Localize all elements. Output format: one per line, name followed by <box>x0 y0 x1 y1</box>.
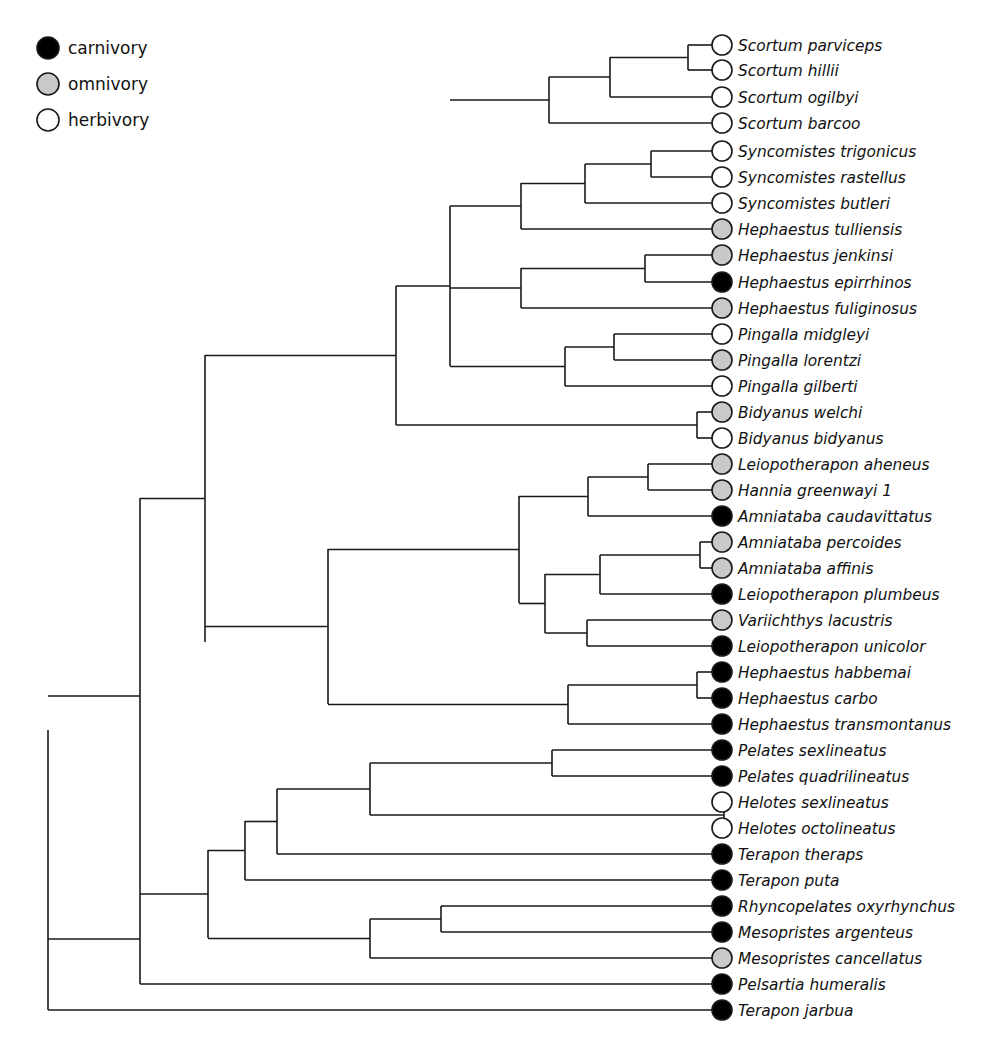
taxon-label: Rhyncopelates oxyrhynchus <box>738 898 955 916</box>
taxon-label: Bidyanus welchi <box>738 404 863 422</box>
taxon-label: Hephaestus transmontanus <box>738 716 951 734</box>
taxon-label: Amniataba percoides <box>737 534 902 552</box>
taxon-label: Amniataba affinis <box>737 560 873 578</box>
clade-mesopristes-clade <box>208 919 370 958</box>
tip-state-circle-carnivory <box>712 714 732 734</box>
taxon-label: Pelates sexlineatus <box>738 742 886 760</box>
taxon-label: Terapon jarbua <box>738 1002 854 1020</box>
legend-label: carnivory <box>68 38 147 58</box>
tip-state-circle-carnivory <box>712 272 732 292</box>
taxon-label: Scortum parviceps <box>738 37 882 55</box>
legend-item-herbivory: herbivory <box>37 109 149 131</box>
legend-circle-omnivory <box>37 73 59 95</box>
legend-label: omnivory <box>68 74 148 94</box>
clade-caudavittatus-clade <box>519 477 588 516</box>
clade-amniataba-pair <box>600 542 700 568</box>
tip-state-circle-omnivory <box>712 298 732 318</box>
tip-state-circle-herbivory <box>712 324 732 344</box>
tip-bidyanus-bidyanus: Bidyanus bidyanus <box>697 428 883 448</box>
taxon-label: Pingalla lorentzi <box>738 352 862 370</box>
tip-state-circle-carnivory <box>712 896 732 916</box>
taxon-label: Mesopristes cancellatus <box>738 950 922 968</box>
taxon-label: Syncomistes butleri <box>738 195 891 213</box>
tip-state-circle-omnivory <box>712 245 732 265</box>
clade-plumbeus-clade <box>545 555 600 594</box>
tip-state-circle-omnivory <box>712 480 732 500</box>
tip-amniataba-percoides: Amniataba percoides <box>700 532 902 552</box>
taxon-label: Pelsartia humeralis <box>738 976 886 994</box>
legend-label: herbivory <box>68 110 149 130</box>
taxon-label: Syncomistes trigonicus <box>738 143 916 161</box>
taxon-label: Pingalla gilberti <box>738 378 858 396</box>
tip-state-circle-herbivory <box>712 167 732 187</box>
tip-state-circle-herbivory <box>712 35 732 55</box>
clade-hephaestus-jenk-epirr <box>521 255 645 282</box>
taxon-label: Hannia greenwayi 1 <box>738 482 892 500</box>
taxon-label: Helotes octolineatus <box>738 820 896 838</box>
clade-plumbeus-unicolor-clade <box>519 574 545 633</box>
taxon-label: Terapon puta <box>738 872 840 890</box>
tip-state-circle-herbivory <box>712 60 732 80</box>
tip-syncomistes-rastellus: Syncomistes rastellus <box>651 167 906 187</box>
tip-mesopristes-argenteus: Mesopristes argenteus <box>441 922 913 942</box>
tip-state-circle-herbivory <box>712 792 732 812</box>
tip-amniataba-caudavittatus: Amniataba caudavittatus <box>588 506 932 526</box>
tip-leiopotherapon-unicolor: Leiopotherapon unicolor <box>587 636 927 656</box>
tip-state-circle-omnivory <box>712 948 732 968</box>
tip-pelates-sexlineatus: Pelates sexlineatus <box>552 740 886 760</box>
clade-helotes-pair <box>370 802 724 828</box>
tip-pingalla-midgleyi: Pingalla midgleyi <box>614 324 870 344</box>
taxon-label: Leiopotherapon aheneus <box>738 456 929 474</box>
taxon-label: Terapon theraps <box>738 846 863 864</box>
tip-state-circle-herbivory <box>712 87 732 107</box>
tip-state-circle-carnivory <box>712 662 732 682</box>
tip-hephaestus-habbemai: Hephaestus habbemai <box>697 662 912 682</box>
taxon-label: Bidyanus bidyanus <box>738 430 883 448</box>
tip-state-circle-omnivory <box>712 454 732 474</box>
tip-state-circle-omnivory <box>712 402 732 422</box>
tip-state-circle-omnivory <box>712 532 732 552</box>
branch-layer <box>48 45 724 1010</box>
tip-scortum-hillii: Scortum hillii <box>688 60 840 80</box>
taxon-label: Amniataba caudavittatus <box>737 508 932 526</box>
taxon-label: Helotes sexlineatus <box>738 794 889 812</box>
tip-scortum-parviceps: Scortum parviceps <box>688 35 882 55</box>
clade-habbemai-carbo <box>568 672 697 698</box>
tip-terapon-puta: Terapon puta <box>245 870 840 890</box>
tip-helotes-octolineatus: Helotes octolineatus <box>712 818 896 838</box>
taxon-label: Leiopotherapon plumbeus <box>738 586 940 604</box>
taxon-label: Scortum hillii <box>738 62 840 80</box>
clade-lower-clade <box>140 850 208 938</box>
tip-state-circle-carnivory <box>712 1000 732 1020</box>
taxon-label: Hephaestus habbemai <box>738 664 912 682</box>
tip-hephaestus-transmontanus: Hephaestus transmontanus <box>568 714 951 734</box>
taxon-label: Hephaestus jenkinsi <box>738 247 894 265</box>
clade-hephaestus-fulig-clade <box>450 268 521 308</box>
taxon-label: Pelates quadrilineatus <box>738 768 909 786</box>
taxon-label: Pingalla midgleyi <box>738 326 870 344</box>
tip-state-circle-carnivory <box>712 636 732 656</box>
clade-rhyncopelates-mesopristes <box>370 906 441 932</box>
tip-state-circle-herbivory <box>712 376 732 396</box>
clade-pelates-helotes-clade <box>277 763 370 815</box>
phylogenetic-tree: Scortum parvicepsScortum hilliiScortum o… <box>0 0 990 1045</box>
tip-pelsartia-humeralis: Pelsartia humeralis <box>140 974 886 994</box>
figure-canvas: Scortum parvicepsScortum hilliiScortum o… <box>0 0 990 1045</box>
taxon-label: Hephaestus fuliginosus <box>738 300 917 318</box>
clade-middle-major-clade <box>205 549 328 704</box>
tip-state-circle-carnivory <box>712 870 732 890</box>
tip-bidyanus-welchi: Bidyanus welchi <box>697 402 863 422</box>
tip-state-circle-herbivory <box>712 193 732 213</box>
tip-pingalla-lorentzi: Pingalla lorentzi <box>614 350 862 370</box>
tip-variichthys-lacustris: Variichthys lacustris <box>587 610 892 630</box>
clade-scortum-parviceps-hillii <box>610 45 688 70</box>
tip-hephaestus-jenkinsi: Hephaestus jenkinsi <box>645 245 894 265</box>
tip-state-circle-herbivory <box>712 113 732 133</box>
clade-pingalla-midg-lor <box>565 334 614 360</box>
taxon-label: Leiopotherapon unicolor <box>738 638 927 656</box>
clade-syncomistes-clade <box>521 164 585 203</box>
tip-state-circle-carnivory <box>712 922 732 942</box>
clade-puta-clade <box>208 821 245 880</box>
clade-lacustris-unicolor <box>545 620 587 646</box>
clade-leiopotherapon-superclade <box>328 496 519 603</box>
